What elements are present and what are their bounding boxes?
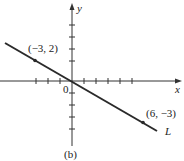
- coordinate-plane: y x 0 (−3, 2) (6, −3) L (b): [0, 0, 184, 161]
- origin-label: 0: [63, 83, 69, 95]
- figure-caption: (b): [64, 148, 77, 161]
- point-neg3-2: [33, 59, 37, 63]
- line-label: L: [164, 125, 171, 137]
- x-axis: [0, 78, 182, 84]
- line-L: [5, 43, 157, 131]
- y-axis: [69, 3, 75, 146]
- point-6-neg3: [141, 121, 145, 125]
- point-label-2: (6, −3): [146, 107, 176, 120]
- point-label-1: (−3, 2): [28, 42, 58, 55]
- x-axis-label: x: [174, 83, 180, 95]
- y-axis-label: y: [76, 2, 82, 14]
